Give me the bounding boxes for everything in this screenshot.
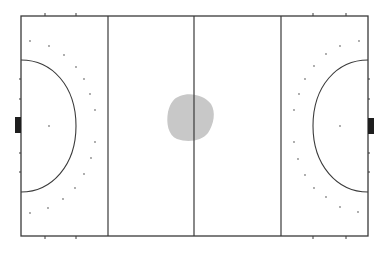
heat-blob xyxy=(167,94,214,141)
hockey-pitch-diagram xyxy=(0,0,386,253)
left-penalty-spot xyxy=(48,125,50,127)
left-dotted-circle xyxy=(29,40,96,214)
right-goal xyxy=(368,118,374,134)
right-penalty-spot xyxy=(339,125,341,127)
left-goal xyxy=(15,117,21,133)
right-dotted-circle xyxy=(293,40,360,213)
